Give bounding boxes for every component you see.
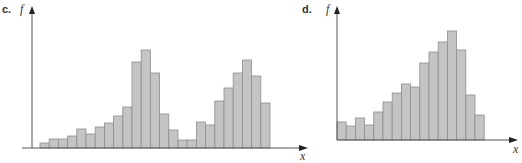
panel-c-bar xyxy=(196,122,205,148)
panel-c-bar xyxy=(224,88,233,148)
panel-c-bar xyxy=(95,127,104,148)
panel-d-y-arrow-icon xyxy=(334,6,340,14)
panel-c-bar xyxy=(206,125,215,148)
panel-c-bar xyxy=(123,107,132,148)
panel-c-bar xyxy=(40,143,49,148)
panel-c-bar xyxy=(86,134,95,148)
panel-d-bars xyxy=(337,31,484,140)
panel-c-bar xyxy=(242,60,251,148)
panel-d-bar xyxy=(411,87,420,140)
panel-d-bar xyxy=(337,122,346,140)
panel-c-x-axis-label: x xyxy=(299,149,306,163)
panel-d-bar xyxy=(355,118,364,140)
panel-d-bar xyxy=(429,52,438,140)
panel-c: c. f x xyxy=(2,2,308,163)
panel-c-y-arrow-icon xyxy=(29,6,35,14)
panel-d-bar xyxy=(401,84,410,140)
panel-c-bar xyxy=(160,114,169,148)
panel-c-bar xyxy=(261,103,270,148)
panel-c-bar xyxy=(68,136,77,148)
panel-d-bar xyxy=(447,31,456,140)
panel-c-bar xyxy=(150,73,159,148)
panel-d-x-axis-label: x xyxy=(512,142,519,156)
histogram-figure: c. f x d. f x xyxy=(0,0,522,163)
panel-c-bar xyxy=(49,139,58,148)
panel-d-bar xyxy=(374,112,383,140)
panel-c-bar xyxy=(252,76,261,148)
panel-c-bars xyxy=(40,50,270,148)
panel-d-bar xyxy=(365,125,374,140)
panel-c-bar xyxy=(187,140,196,148)
panel-d-bar xyxy=(438,42,447,140)
panel-d: d. f x xyxy=(302,2,519,156)
panel-c-bar xyxy=(132,62,141,148)
panel-d-label: d. xyxy=(302,3,312,15)
panel-d-y-axis-label: f xyxy=(326,2,331,16)
panel-c-y-axis-label: f xyxy=(20,2,25,16)
panel-c-bar xyxy=(58,139,67,148)
panel-d-bar xyxy=(475,115,484,140)
panel-d-bar xyxy=(457,50,466,140)
panel-d-bar xyxy=(466,95,475,140)
panel-c-bar xyxy=(178,140,187,148)
panel-d-bar xyxy=(383,102,392,140)
panel-c-bar xyxy=(215,101,224,148)
panel-c-label: c. xyxy=(2,3,11,15)
panel-d-bar xyxy=(392,93,401,140)
panel-c-bar xyxy=(77,129,86,148)
panel-c-bar xyxy=(233,73,242,148)
panel-c-bar xyxy=(169,130,178,148)
panel-c-bar xyxy=(114,116,123,148)
panel-d-bar xyxy=(346,126,355,140)
panel-c-bar xyxy=(141,50,150,148)
panel-d-bar xyxy=(420,63,429,140)
panel-c-bar xyxy=(104,123,113,148)
